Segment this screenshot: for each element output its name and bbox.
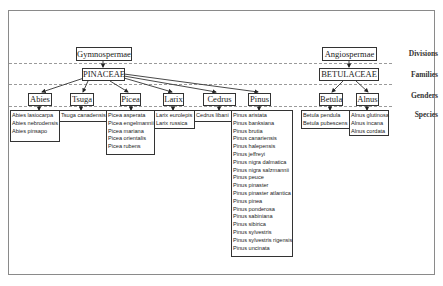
species-item: Pinus sylvestris — [233, 229, 291, 237]
tree-edges — [0, 0, 443, 286]
species-item: Picea orientalis — [108, 135, 153, 143]
node-alnus: Alnus — [356, 93, 379, 106]
species-list-betula: Betula pendula Betula pubescens — [301, 110, 350, 129]
node-gymnospermae: Gymnospermae — [76, 47, 132, 61]
species-list-abies: Abies lasiocarpa Abies nebrodensis Abies… — [10, 110, 60, 142]
species-item: Picea asperata — [108, 112, 153, 120]
species-list-pinus: Pinus aristata Pinus banksiana Pinus bru… — [231, 110, 293, 257]
species-item: Abies nebrodensis — [12, 120, 58, 128]
node-angiospermae: Angiospermae — [322, 47, 377, 61]
species-item: Pinus sabiniana — [233, 213, 291, 221]
species-item: Pinus ponderosa — [233, 206, 291, 214]
species-item: Larix eurolepis — [156, 112, 193, 120]
species-item: Cedrus libani — [196, 112, 230, 120]
species-list-larix: Larix eurolepis Larix russica — [154, 110, 195, 129]
node-cedrus: Cedrus — [203, 93, 236, 106]
species-item: Pinus pinaster atlantica — [233, 190, 291, 198]
species-item: Picea engelmannii — [108, 120, 153, 128]
species-item: Picea mariana — [108, 128, 153, 136]
species-item: Pinus sylvestris rigensis — [233, 237, 291, 245]
species-item: Pinus pinea — [233, 198, 291, 206]
species-item: Pinus halepensis — [233, 143, 291, 151]
species-item: Pinus brutia — [233, 128, 291, 136]
node-tsuga: Tsuga — [70, 93, 94, 106]
species-item: Pinus banksiana — [233, 120, 291, 128]
species-item: Abies pinsapo — [12, 128, 58, 136]
species-item: Betula pendula — [303, 112, 348, 120]
species-item: Pinus aristata — [233, 112, 291, 120]
node-betulaceae: BETULACEAE — [319, 68, 379, 81]
species-item: Alnus cordata — [351, 128, 387, 136]
species-list-alnus: Alnus glutinosa Alnus incana Alnus corda… — [349, 110, 389, 136]
species-item: Alnus incana — [351, 120, 387, 128]
node-abies: Abies — [28, 93, 52, 106]
node-larix: Larix — [163, 93, 184, 106]
species-item: Abies lasiocarpa — [12, 112, 58, 120]
species-item: Tsuga canadensis — [61, 112, 105, 120]
species-list-picea: Picea asperata Picea engelmannii Picea m… — [106, 110, 155, 155]
node-pinus: Pinus — [248, 93, 271, 106]
species-item: Pinus jeffreyi — [233, 151, 291, 159]
species-item: Alnus glutinosa — [351, 112, 387, 120]
species-list-tsuga: Tsuga canadensis — [59, 110, 107, 122]
species-item: Larix russica — [156, 120, 193, 128]
species-item: Betula pubescens — [303, 120, 348, 128]
node-pinaceae: PINACEAE — [82, 68, 125, 81]
species-item: Picea rubens — [108, 143, 153, 151]
node-betula: Betula — [319, 93, 343, 106]
species-item: Pinus canariensis — [233, 135, 291, 143]
species-item: Pinus pinaster — [233, 182, 291, 190]
species-item: Pinus peuce — [233, 174, 291, 182]
species-item: Pinus uncinata — [233, 245, 291, 253]
node-picea: Picea — [120, 93, 141, 106]
species-item: Pinus nigra salzmannii — [233, 167, 291, 175]
species-list-cedrus: Cedrus libani — [194, 110, 232, 122]
species-item: Pinus sibirica — [233, 221, 291, 229]
species-item: Pinus nigra dalmatica — [233, 159, 291, 167]
